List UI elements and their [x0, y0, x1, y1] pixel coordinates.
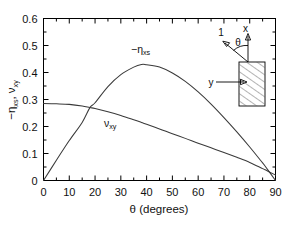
inset-label-y: y: [209, 77, 214, 88]
x-tick-label: 30: [115, 186, 127, 198]
x-axis-title: θ (degrees): [130, 203, 189, 215]
x-axis-minor-ticks: [56, 19, 262, 181]
curve-label-eta-xs: −ηxs: [131, 43, 151, 57]
y-tick-label: 0: [31, 175, 37, 187]
x-tick-label: 40: [140, 186, 152, 198]
y-tick-label: 0.4: [22, 67, 37, 79]
y-tick-label: 0.6: [22, 13, 37, 25]
x-axis-tick-labels: 0102030405060708090: [40, 186, 281, 198]
chart-plot: 0102030405060708090 00.10.20.30.40.50.6 …: [0, 0, 294, 233]
inset-label-1: 1: [218, 27, 224, 38]
x-tick-label: 0: [40, 186, 46, 198]
x-tick-label: 20: [89, 186, 101, 198]
y-tick-label: 0.3: [22, 94, 37, 106]
x-tick-label: 80: [244, 186, 256, 198]
x-tick-label: 70: [218, 186, 230, 198]
y-tick-label: 0.5: [22, 40, 37, 52]
y-axis-title: −ηxs, νxy: [5, 80, 20, 120]
curve-nu-xy: [44, 104, 276, 176]
inset-diagram: x 1 θ y: [209, 23, 266, 106]
curve-label-nu-xy: νxy: [104, 117, 117, 131]
y-tick-label: 0.1: [22, 148, 37, 160]
inset-label-theta: θ: [235, 37, 241, 48]
x-tick-label: 50: [166, 186, 178, 198]
svg-text:−ηxs, νxy: −ηxs, νxy: [5, 80, 20, 120]
inset-label-x: x: [243, 23, 248, 34]
y-tick-label: 0.2: [22, 121, 37, 133]
x-tick-label: 90: [269, 186, 281, 198]
figure-container: 0102030405060708090 00.10.20.30.40.50.6 …: [0, 0, 294, 233]
x-tick-label: 10: [63, 186, 75, 198]
y-axis-tick-labels: 00.10.20.30.40.50.6: [22, 13, 37, 187]
x-tick-label: 60: [192, 186, 204, 198]
